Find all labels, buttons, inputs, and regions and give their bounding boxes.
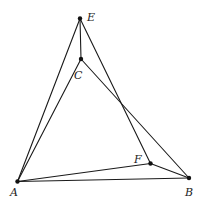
point-C: [79, 57, 83, 61]
label-E: E: [86, 11, 95, 24]
label-B: B: [184, 186, 193, 199]
segment-EA: [18, 19, 81, 182]
geometry-figure: ABCEF: [0, 0, 202, 206]
segments: [18, 19, 190, 182]
label-C: C: [74, 69, 83, 82]
segment-EF: [80, 19, 151, 164]
point-A: [15, 179, 19, 183]
point-E: [78, 16, 82, 20]
segment-EC: [80, 19, 81, 60]
segment-FB: [151, 164, 190, 179]
point-F: [148, 161, 152, 165]
vertex-labels: ABCEF: [9, 11, 193, 199]
label-F: F: [133, 153, 142, 166]
point-B: [187, 176, 191, 180]
label-A: A: [9, 186, 18, 199]
vertices: [15, 16, 191, 183]
segment-CA: [18, 59, 82, 182]
